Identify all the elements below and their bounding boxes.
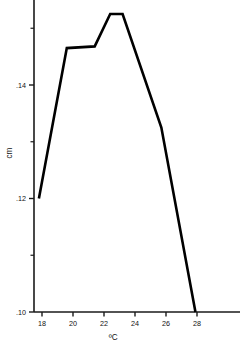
x-axis-tick-label: 26: [162, 319, 170, 328]
line-chart: .10.12.14 182022242628 ºC cm: [0, 0, 248, 356]
chart-canvas: .10.12.14 182022242628 ºC cm: [0, 0, 248, 356]
y-axis-tick-label: .14: [16, 81, 26, 90]
chart-background: [0, 0, 248, 356]
y-axis-tick-label: .10: [16, 308, 26, 317]
y-axis-tick-label: .12: [16, 194, 26, 203]
x-axis-tick-label: 24: [131, 319, 139, 328]
y-axis-title: cm: [5, 147, 14, 158]
x-axis-title: ºC: [109, 333, 118, 342]
x-axis-tick-label: 22: [100, 319, 108, 328]
x-axis-tick-label: 18: [38, 319, 46, 328]
x-axis-tick-label: 20: [69, 319, 77, 328]
x-axis-tick-label: 28: [193, 319, 201, 328]
